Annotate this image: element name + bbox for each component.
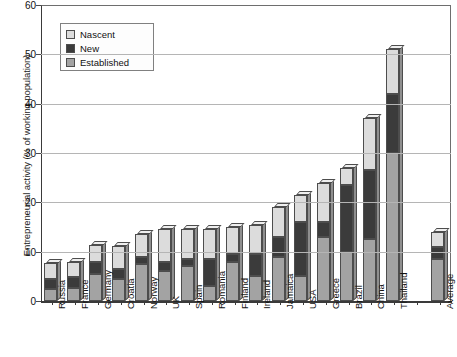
y-axis-tick-10: 10 [14,246,36,257]
bar-side-face [307,191,311,301]
gridline [41,252,451,253]
bar-china[interactable] [363,118,376,301]
bar-segment-nascent[interactable] [226,227,239,254]
x-axis-label-ireland: Ireland [261,280,272,309]
x-axis-tick [75,301,76,305]
bar-segment-established[interactable] [431,259,444,301]
x-axis-tick [257,301,258,305]
bar-segment-nascent[interactable] [112,246,125,269]
bar-romania[interactable] [203,229,216,301]
bar-segment-new[interactable] [249,254,262,276]
x-axis-tick [371,301,372,305]
legend-item-new: New [66,42,148,55]
bar-segment-established[interactable] [203,286,216,301]
bar-segment-nascent[interactable] [249,225,262,255]
bar-segment-new[interactable] [67,277,80,287]
bar-segment-nascent[interactable] [363,118,376,170]
bar-segment-new[interactable] [294,222,307,276]
bar-segment-nascent[interactable] [340,168,353,185]
bar-segment-nascent[interactable] [158,229,171,261]
x-axis-tick [349,301,350,305]
x-axis-label-croatia: Croatia [125,278,136,309]
bar-segment-established[interactable] [226,262,239,301]
bar-segment-established[interactable] [386,153,399,301]
bar-croatia[interactable] [112,246,125,301]
bar-segment-established[interactable] [249,276,262,301]
bar-segment-new[interactable] [317,222,330,237]
bar-segment-established[interactable] [294,276,307,301]
bar-spain[interactable] [181,229,194,301]
x-axis-label-russia: Russia [56,280,67,309]
bar-segment-new[interactable] [181,259,194,266]
x-axis-label-thailand: Thailand [398,273,409,309]
bar-segment-nascent[interactable] [67,262,80,278]
x-axis-tick [212,301,213,305]
bar-segment-established[interactable] [181,266,194,301]
x-axis-label-finland: Finland [239,278,250,309]
x-axis-label-jamaica: Jamaica [284,274,295,309]
bar-finland[interactable] [226,227,239,301]
x-axis-label-usa: USA [307,289,318,309]
bar-segment-nascent[interactable] [89,245,102,261]
bar-top-face [69,258,86,262]
bar-segment-nascent[interactable] [294,195,307,222]
bar-segment-established[interactable] [158,271,171,301]
bar-russia[interactable] [44,263,57,301]
bar-segment-established[interactable] [272,257,285,301]
bar-side-face [171,226,175,301]
bar-segment-nascent[interactable] [272,207,285,237]
bar-segment-established[interactable] [44,289,57,301]
bar-segment-established[interactable] [112,279,125,301]
bar-segment-new[interactable] [89,262,102,274]
bar-segment-new[interactable] [135,257,148,264]
bar-segment-nascent[interactable] [135,234,148,256]
bar-norway[interactable] [135,234,148,301]
bar-thailand[interactable] [386,49,399,301]
bar-brazil[interactable] [340,168,353,301]
bar-segment-nascent[interactable] [44,263,57,279]
bar-segment-new[interactable] [363,170,376,239]
bar-segment-established[interactable] [363,239,376,301]
y-axis-tick-30: 30 [14,148,36,159]
bar-segment-nascent[interactable] [181,229,194,259]
legend-label-new: New [80,43,99,54]
bar-segment-established[interactable] [135,264,148,301]
bar-ireland[interactable] [249,225,262,301]
bar-greece[interactable] [317,183,330,301]
x-axis-label-germany: Germany [102,270,113,309]
x-axis-tick [280,301,281,305]
bar-segment-new[interactable] [112,269,125,279]
x-axis-tick [440,301,441,305]
legend-label-nascent: Nascent [80,29,115,40]
bar-germany[interactable] [89,245,102,301]
bar-jamaica[interactable] [272,207,285,301]
bar-segment-nascent[interactable] [203,229,216,259]
gridline [41,202,451,203]
bar-segment-established[interactable] [340,252,353,301]
bar-segment-new[interactable] [158,262,171,272]
bar-segment-new[interactable] [431,247,444,259]
bar-segment-nascent[interactable] [386,49,399,93]
bar-segment-established[interactable] [89,274,102,301]
legend-swatch-established-icon [66,58,75,67]
bar-france[interactable] [67,262,80,301]
bar-segment-established[interactable] [317,237,330,301]
x-axis-tick [121,301,122,305]
bar-segment-new[interactable] [226,254,239,261]
y-axis-tick-20: 20 [14,197,36,208]
bar-segment-new[interactable] [272,237,285,257]
bar-segment-established[interactable] [67,288,80,301]
x-axis-tick [235,301,236,305]
bar-average[interactable] [431,232,444,301]
bar-segment-new[interactable] [203,259,216,286]
bar-segment-nascent[interactable] [431,232,444,247]
x-axis-tick [166,301,167,305]
bar-segment-new[interactable] [340,185,353,252]
bar-uk[interactable] [158,229,171,301]
x-axis-tick [326,301,327,305]
bar-usa[interactable] [294,195,307,301]
bar-segment-new[interactable] [44,279,57,289]
x-axis-label-china: China [375,284,386,309]
legend-item-nascent: Nascent [66,28,148,41]
gridline [41,54,451,55]
